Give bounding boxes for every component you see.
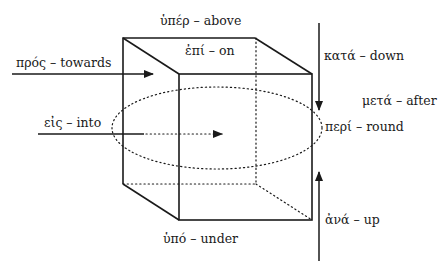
- label-after: μετά – after: [362, 93, 437, 108]
- back-left-edges: [123, 38, 255, 184]
- top-right-diagonal: [255, 38, 312, 74]
- label-up: ἀνά – up: [325, 212, 380, 227]
- front-face: [179, 74, 312, 220]
- label-into: εἰς – into: [44, 115, 101, 130]
- label-on: ἐπί – on: [185, 43, 235, 58]
- label-down: κατά – down: [324, 48, 404, 63]
- label-under: ὑπό – under: [163, 231, 238, 246]
- label-above: ὑπέρ – above: [160, 13, 241, 28]
- labels: ὑπέρ – above ἐπί – on πρός – towards κατ…: [16, 13, 437, 246]
- prepositions-diagram: ὑπέρ – above ἐπί – on πρός – towards κατ…: [0, 0, 447, 267]
- cube-visible-edges: [123, 38, 312, 220]
- label-round: περί – round: [325, 119, 404, 134]
- label-towards: πρός – towards: [16, 55, 111, 70]
- bottom-left-diagonal: [123, 184, 179, 220]
- top-left-diagonal: [123, 38, 179, 74]
- round-ellipse: [112, 87, 322, 169]
- hidden-bottom-diagonal-edge: [256, 184, 312, 220]
- cube-hidden-edges: [123, 38, 312, 220]
